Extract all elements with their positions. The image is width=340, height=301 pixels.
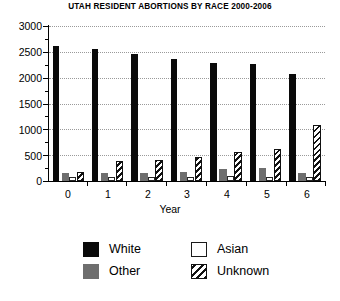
bar-chart: UTAH RESIDENT ABORTIONS BY RACE 2000-200…: [0, 0, 340, 301]
black-square-swatch-icon: [83, 242, 99, 257]
y-axis-label-3000: 3000: [2, 21, 42, 31]
x-axis-label-0: 0: [53, 188, 83, 200]
bar-asian-year-4: [227, 176, 234, 181]
bar-asian-year-6: [306, 177, 313, 181]
chart-legend: White Other Asian Unknown: [0, 236, 340, 298]
hatched-square-swatch-icon: [191, 264, 207, 279]
y-axis-label-1500: 1500: [2, 99, 42, 109]
y-axis-label-0: 0: [2, 176, 42, 186]
legend-label-white: White: [109, 242, 141, 257]
bar-asian-year-3: [187, 177, 194, 181]
bar-unknown-year-4: [234, 152, 242, 181]
bar-unknown-year-6: [313, 125, 321, 181]
bar-other-year-5: [259, 168, 267, 181]
y-axis-label-500: 500: [2, 151, 42, 161]
x-separator-1: [126, 181, 127, 186]
x-separator-3: [206, 181, 207, 186]
gridline-3000: [49, 26, 325, 27]
x-separator-0: [87, 181, 88, 186]
gridline-1000: [49, 129, 325, 130]
bar-white-year-2: [131, 54, 138, 181]
x-axis-label-3: 3: [172, 188, 202, 200]
legend-label-unknown: Unknown: [217, 264, 269, 279]
gridline-2500: [49, 52, 325, 53]
bar-asian-year-1: [108, 177, 115, 181]
gridline-500: [49, 155, 325, 156]
bar-white-year-0: [53, 46, 60, 181]
x-axis-label-4: 4: [212, 188, 242, 200]
bar-unknown-year-5: [274, 149, 282, 181]
bar-other-year-6: [298, 173, 306, 181]
bar-asian-year-5: [266, 177, 273, 181]
y-axis-label-2000: 2000: [2, 73, 42, 83]
bar-asian-year-0: [69, 177, 76, 181]
bar-other-year-2: [140, 173, 148, 181]
gridline-2000: [49, 78, 325, 79]
bar-unknown-year-1: [116, 161, 124, 181]
bar-unknown-year-0: [77, 172, 85, 181]
x-axis-label-5: 5: [252, 188, 282, 200]
legend-label-asian: Asian: [217, 242, 248, 257]
gridline-1500: [49, 104, 325, 105]
bar-other-year-3: [180, 172, 188, 181]
bar-asian-year-2: [148, 177, 155, 181]
x-axis-label-1: 1: [93, 188, 123, 200]
bar-other-year-0: [62, 173, 70, 181]
bar-white-year-4: [210, 63, 217, 181]
y-axis-label-2500: 2500: [2, 47, 42, 57]
x-separator-2: [166, 181, 167, 186]
bar-unknown-year-2: [155, 160, 163, 181]
bar-white-year-1: [92, 49, 99, 181]
gray-square-swatch-icon: [83, 264, 99, 279]
legend-label-other: Other: [109, 264, 140, 279]
bar-other-year-1: [101, 173, 109, 181]
x-axis-label-6: 6: [292, 188, 322, 200]
x-separator-6: [325, 181, 326, 186]
x-axis-label-2: 2: [133, 188, 163, 200]
x-separator-4: [246, 181, 247, 186]
bar-other-year-4: [219, 169, 227, 181]
bar-white-year-5: [250, 64, 257, 181]
bar-white-year-3: [171, 59, 178, 181]
x-axis-line: [48, 181, 326, 182]
x-separator-5: [286, 181, 287, 186]
y-axis-label-1000: 1000: [2, 125, 42, 135]
white-square-swatch-icon: [191, 242, 207, 257]
bar-unknown-year-3: [195, 157, 203, 181]
plot-area: [49, 26, 325, 181]
chart-title: UTAH RESIDENT ABORTIONS BY RACE 2000-200…: [0, 2, 340, 11]
bar-white-year-6: [289, 74, 296, 181]
x-axis-title: Year: [0, 203, 340, 215]
